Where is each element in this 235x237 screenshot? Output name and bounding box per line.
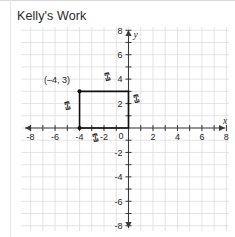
x-tick-label: -2	[100, 132, 108, 142]
y-axis-label: y	[133, 30, 139, 40]
y-tick-label: -6	[114, 197, 122, 207]
tick-mark-top: ⑄	[103, 70, 112, 83]
coordinate-grid-chart: -8-6-4-224688642-2-4-6-80 (–4, 3)⑄⑄⑄⑄ xy	[21, 27, 229, 231]
y-tick-label: 8	[117, 27, 122, 36]
vertex-point	[77, 126, 81, 130]
page-rule-top	[0, 0, 235, 1]
y-tick-label: -2	[114, 148, 122, 158]
gridlines-group	[21, 27, 229, 231]
x-axis-arrow-left	[25, 125, 31, 131]
y-tick-label: -4	[114, 172, 122, 182]
x-tick-label: -6	[51, 132, 59, 142]
y-axis-arrow-down	[125, 222, 131, 228]
worksheet-page: Kelly's Work -8-6-4-224688642-2-4-6-80 (…	[0, 0, 235, 237]
x-tick-label: 2	[150, 132, 155, 142]
x-tick-label: 4	[175, 132, 180, 142]
vertex-point	[77, 89, 81, 93]
tick-labels-group: -8-6-4-224688642-2-4-6-80	[27, 27, 229, 231]
axis-names-group: xy	[133, 30, 229, 126]
x-tick-label: 8	[224, 132, 229, 142]
coordinate-plane-svg: -8-6-4-224688642-2-4-6-80 (–4, 3)⑄⑄⑄⑄ xy	[21, 27, 229, 231]
x-tick-label: 6	[199, 132, 204, 142]
y-tick-label: -8	[114, 221, 122, 231]
tick-mark-right: ⑄	[132, 92, 141, 105]
x-tick-label: -4	[76, 132, 84, 142]
tick-mark-left: ⑄	[63, 99, 72, 112]
plotted-shapes-group	[77, 89, 128, 130]
origin-label: 0	[118, 131, 123, 141]
page-title: Kelly's Work	[17, 9, 86, 23]
x-tick-label: -8	[27, 132, 35, 142]
y-axis-arrow-up	[125, 30, 131, 36]
y-tick-label: 4	[117, 74, 122, 84]
y-tick-label: 2	[117, 99, 122, 109]
x-axis-label: x	[222, 116, 228, 126]
y-tick-label: 6	[117, 50, 122, 60]
vertex-label: (–4, 3)	[44, 75, 70, 85]
page-rule-left	[10, 0, 11, 237]
